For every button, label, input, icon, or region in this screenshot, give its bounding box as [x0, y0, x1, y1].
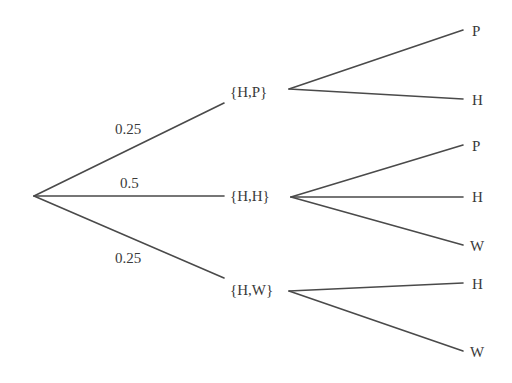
tree-labels: {H,P}0.25{H,H}0.5{H,W}0.25PHPHWHW [115, 23, 485, 360]
leaf-label-hh-h: H [472, 189, 483, 205]
leaf-edge-hh-4 [291, 197, 463, 245]
leaf-edge-hw-5 [289, 283, 463, 291]
leaf-edge-hp-0 [289, 30, 463, 89]
leaf-label-hh-p: P [472, 138, 480, 154]
probability-label-hp: 0.25 [115, 121, 141, 137]
leaf-edge-hw-6 [289, 291, 463, 351]
probability-label-hh: 0.5 [120, 175, 139, 191]
leaf-label-hh-w: W [470, 238, 485, 254]
node-label-hw: {H,W} [230, 282, 273, 298]
node-label-hp: {H,P} [230, 84, 267, 100]
leaf-label-hw-w: W [470, 344, 485, 360]
leaf-label-hw-h: H [472, 276, 483, 292]
probability-label-hw: 0.25 [115, 250, 141, 266]
leaf-edge-hh-2 [291, 145, 463, 197]
leaf-label-hp-h: H [472, 92, 483, 108]
probability-tree-diagram: {H,P}0.25{H,H}0.5{H,W}0.25PHPHWHW [0, 0, 512, 383]
leaf-edge-hp-1 [289, 89, 463, 99]
leaf-label-hp-p: P [472, 23, 480, 39]
node-label-hh: {H,H} [230, 188, 270, 204]
